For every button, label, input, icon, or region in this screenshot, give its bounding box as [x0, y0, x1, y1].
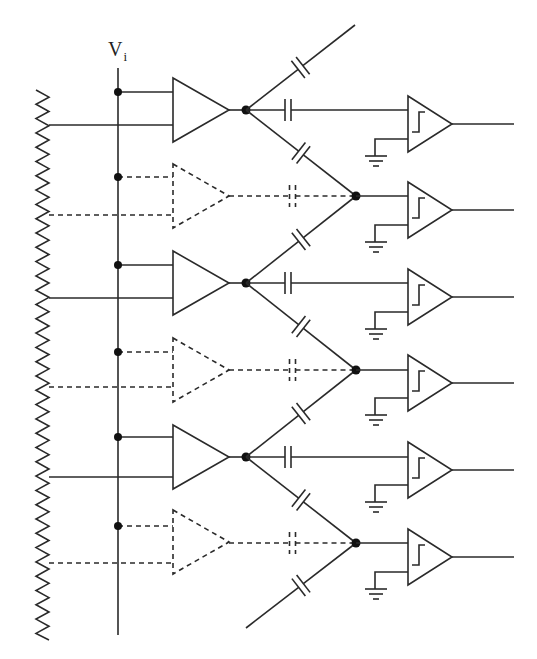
capacitor-plate-icon: [292, 142, 306, 159]
ground-wire: [375, 225, 408, 242]
comparator-triangle-icon: [408, 529, 452, 585]
capacitor-lead: [303, 196, 356, 238]
preamp-array: [49, 78, 251, 574]
capacitor-lead: [303, 370, 356, 412]
ground-wire: [375, 572, 408, 589]
resistor-ladder: [36, 90, 49, 640]
comparator-triangle-icon: [408, 355, 452, 411]
junction-dot: [114, 433, 122, 441]
comparator-3: [365, 269, 514, 339]
capacitor-plate-icon: [297, 575, 310, 592]
capacitor-plate-icon: [291, 61, 305, 78]
hysteresis-icon: [412, 198, 425, 218]
hysteresis-icon: [412, 458, 425, 478]
comparator-triangle-icon: [408, 442, 452, 498]
capacitor-plate-icon: [296, 57, 310, 74]
comparator-6: [365, 529, 514, 599]
capacitor-plate-icon: [297, 229, 311, 246]
preamp-2: [49, 164, 229, 228]
preamp-3: [49, 251, 251, 315]
hysteresis-icon: [412, 371, 425, 391]
preamp-triangle-icon: [173, 338, 229, 402]
capacitor-dashed: [229, 359, 356, 381]
comparator-4: [365, 355, 514, 425]
comparator-triangle-icon: [408, 96, 452, 152]
preamp-triangle-icon: [173, 510, 229, 574]
ground-wire: [375, 398, 408, 415]
capacitor-top: [246, 25, 355, 110]
capacitor-direct: [246, 272, 330, 294]
capacitor-plate-icon: [292, 579, 305, 596]
capacitor-direct: [246, 446, 330, 468]
hysteresis-icon: [412, 545, 425, 565]
junction-dot: [114, 522, 122, 530]
capacitor-lead: [303, 502, 356, 543]
input-label: Vi: [108, 38, 127, 64]
capacitor-plate-icon: [292, 316, 306, 333]
capacitor-diagonal-down: [246, 457, 356, 543]
capacitor-diagonal-up: [246, 196, 356, 283]
hysteresis-icon: [412, 285, 425, 305]
junction-dot: [114, 348, 122, 356]
capacitor-lead: [303, 25, 355, 66]
preamp-6: [49, 510, 229, 574]
circuit-diagram: Vi: [0, 0, 537, 659]
ground-wire: [375, 139, 408, 156]
preamp-triangle-icon: [173, 164, 229, 228]
capacitor-dashed: [229, 532, 356, 554]
capacitor-diagonal-down: [246, 283, 356, 370]
capacitor-direct: [246, 99, 330, 121]
preamp-4: [49, 338, 229, 402]
comparator-2: [365, 182, 514, 252]
capacitor-lead: [303, 328, 356, 370]
capacitor-lead: [246, 587, 299, 628]
capacitor-plate-icon: [292, 489, 306, 506]
capacitive-interpolation-network: [229, 25, 408, 628]
junction-dot: [114, 261, 122, 269]
capacitor-diagonal-down: [246, 110, 356, 196]
junction-dot: [114, 88, 122, 96]
capacitor-diagonal-up: [246, 370, 356, 457]
comparator-5: [365, 442, 514, 512]
capacitor-plate-icon: [297, 493, 311, 510]
comparator-bank: [365, 96, 514, 599]
ground-wire: [375, 485, 408, 502]
preamp-5: [49, 425, 251, 489]
capacitor-plate-icon: [297, 403, 311, 420]
capacitor-plate-icon: [292, 233, 306, 250]
comparator-1: [365, 96, 514, 166]
capacitor-bottom: [246, 543, 356, 628]
capacitor-lead: [303, 155, 356, 196]
preamp-triangle-icon: [173, 251, 229, 315]
capacitor-plate-icon: [292, 407, 306, 424]
junction-dot: [114, 173, 122, 181]
hysteresis-icon: [412, 112, 425, 132]
comparator-triangle-icon: [408, 269, 452, 325]
ground-wire: [375, 312, 408, 329]
capacitor-plate-icon: [297, 320, 311, 337]
preamp-triangle-icon: [173, 78, 229, 142]
preamp-1: [49, 78, 251, 142]
capacitor-plate-icon: [297, 146, 311, 163]
capacitor-dashed: [229, 185, 356, 207]
comparator-triangle-icon: [408, 182, 452, 238]
capacitor-lead: [303, 543, 356, 584]
preamp-triangle-icon: [173, 425, 229, 489]
